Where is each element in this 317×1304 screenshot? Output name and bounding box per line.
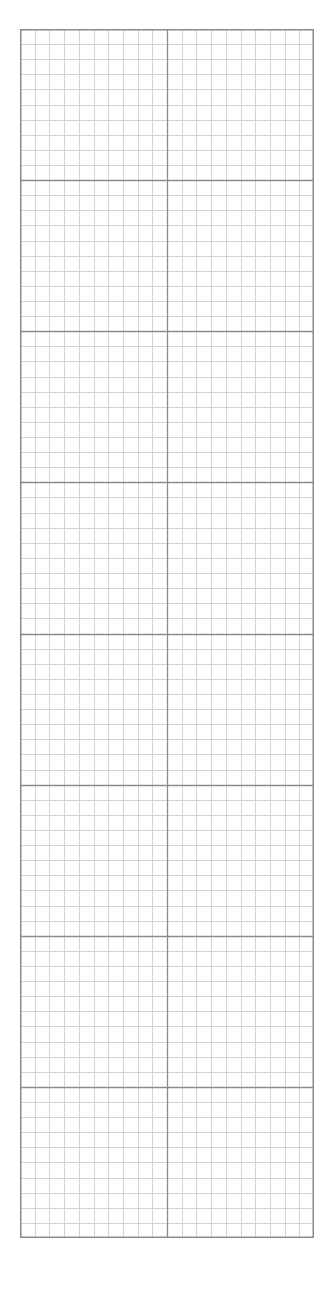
- graph-paper-grid: [20, 29, 314, 1238]
- grid-lines: [20, 29, 314, 1238]
